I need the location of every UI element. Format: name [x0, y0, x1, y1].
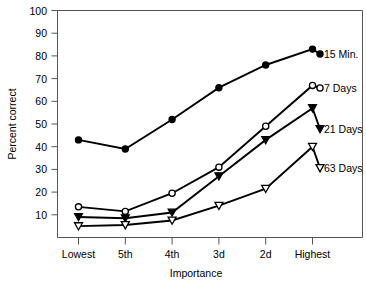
series-line: [79, 147, 321, 226]
x-axis-tick-labels: Lowest 5th 4th 3d 2d Highest: [62, 248, 331, 260]
series-line: [79, 49, 321, 149]
y-tick-label-90: 90: [35, 27, 47, 39]
data-point: [75, 137, 81, 143]
data-point: [263, 123, 269, 129]
y-tick-label-10: 10: [35, 209, 47, 221]
line-chart: 100 90 80 70 60 50 40 30 20 10 Lowest 5t…: [0, 0, 366, 283]
series-layer: [75, 46, 325, 230]
data-point: [263, 62, 269, 68]
series-labels: 15 Min. 7 Days 21 Days 63 Days: [324, 48, 363, 174]
y-axis-ticks: [52, 11, 58, 215]
y-tick-label-20: 20: [35, 186, 47, 198]
data-point: [216, 85, 222, 91]
series-label-63days: 63 Days: [324, 162, 363, 174]
series-label-marker: [316, 165, 324, 172]
y-tick-label-60: 60: [35, 95, 47, 107]
series-label-7days: 7 Days: [324, 82, 357, 94]
y-tick-label-40: 40: [35, 141, 47, 153]
x-tick-label-4th: 4th: [165, 248, 180, 260]
series-21-days: [75, 105, 325, 222]
y-axis-title: Percent correct: [6, 88, 18, 159]
x-axis-title: Importance: [170, 267, 223, 279]
y-tick-label-50: 50: [35, 118, 47, 130]
data-point: [309, 82, 315, 88]
x-tick-label-2d: 2d: [260, 248, 272, 260]
x-axis-ticks: [79, 238, 313, 245]
series-label-marker: [317, 51, 323, 57]
data-point: [216, 164, 222, 170]
data-point: [75, 204, 81, 210]
data-point: [169, 190, 175, 196]
series-label-21days: 21 Days: [324, 123, 363, 135]
series-15-min: [75, 46, 323, 152]
y-tick-label-80: 80: [35, 50, 47, 62]
chart-canvas: 100 90 80 70 60 50 40 30 20 10 Lowest 5t…: [0, 0, 366, 283]
data-point: [122, 208, 128, 214]
series-line: [79, 108, 321, 218]
y-axis-tick-labels: 100 90 80 70 60 50 40 30 20 10: [29, 5, 47, 221]
data-point: [169, 116, 175, 122]
y-tick-label-100: 100: [29, 5, 47, 17]
x-tick-label-5th: 5th: [118, 248, 133, 260]
series-label-15min: 15 Min.: [324, 48, 358, 60]
plot-frame: [58, 11, 363, 238]
data-point: [309, 46, 315, 52]
x-tick-label-highest: Highest: [295, 248, 331, 260]
y-tick-label-30: 30: [35, 163, 47, 175]
series-label-marker: [316, 126, 324, 133]
y-tick-label-70: 70: [35, 73, 47, 85]
x-tick-label-lowest: Lowest: [62, 248, 95, 260]
series-label-marker: [317, 85, 323, 91]
data-point: [122, 146, 128, 152]
x-tick-label-3d: 3d: [213, 248, 225, 260]
